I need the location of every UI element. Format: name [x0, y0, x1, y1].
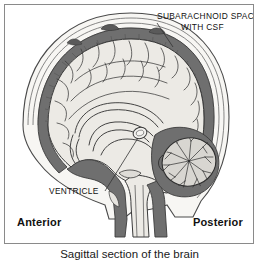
- figure-caption: Sagittal section of the brain: [0, 248, 259, 260]
- figure-border-box: SUBARACHNOID SPACE WITH CSF VENTRICLE An…: [4, 4, 254, 244]
- subarachnoid-label-line1: SUBARACHNOID SPACE: [157, 11, 253, 21]
- figure-root: SUBARACHNOID SPACE WITH CSF VENTRICLE An…: [0, 0, 259, 271]
- annotation-ventricle: VENTRICLE: [49, 186, 99, 196]
- posterior-label: Posterior: [193, 216, 243, 228]
- sagittal-brain-illustration: SUBARACHNOID SPACE WITH CSF VENTRICLE: [5, 5, 253, 243]
- illustration-layers: SUBARACHNOID SPACE WITH CSF VENTRICLE: [23, 11, 253, 237]
- subarachnoid-label-line2: WITH CSF: [181, 22, 224, 32]
- anterior-label: Anterior: [17, 216, 61, 228]
- ventricle-label: VENTRICLE: [49, 186, 99, 196]
